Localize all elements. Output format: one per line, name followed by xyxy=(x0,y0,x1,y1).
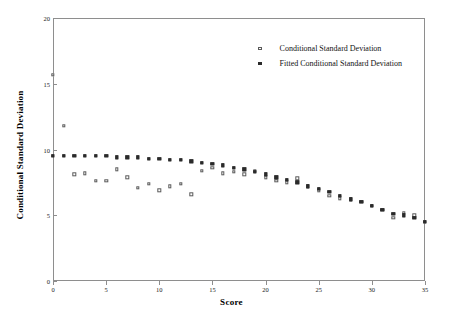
x-axis-label: Score xyxy=(0,297,463,307)
data-point xyxy=(317,187,320,190)
x-tick-label: 20 xyxy=(262,286,269,293)
data-point xyxy=(62,124,65,127)
data-point xyxy=(51,73,54,76)
data-point xyxy=(51,154,54,157)
data-point xyxy=(83,154,86,157)
data-point xyxy=(189,160,192,163)
data-point xyxy=(104,154,107,157)
x-tick-mark xyxy=(319,281,320,285)
open-square-icon xyxy=(258,47,262,51)
data-point xyxy=(126,175,129,178)
data-point xyxy=(200,161,203,164)
data-point xyxy=(274,175,277,178)
x-tick-mark xyxy=(212,281,213,285)
data-point xyxy=(115,156,118,159)
y-axis-label: Conditional Standard Deviation xyxy=(15,65,25,245)
legend-label: Fitted Conditional Standard Deviation xyxy=(280,59,402,68)
data-point xyxy=(243,173,246,176)
data-point xyxy=(381,208,384,211)
data-point xyxy=(147,182,150,185)
data-point xyxy=(338,194,341,197)
data-point xyxy=(179,158,182,161)
x-tick-mark xyxy=(266,281,267,285)
y-tick-mark xyxy=(53,215,57,216)
data-point xyxy=(115,168,118,171)
y-tick-label: 15 xyxy=(44,80,51,87)
legend-label: Conditional Standard Deviation xyxy=(280,44,382,53)
legend-item: Conditional Standard Deviation xyxy=(258,41,402,56)
data-point xyxy=(126,156,129,159)
x-tick-label: 5 xyxy=(105,286,108,293)
data-point xyxy=(221,171,224,174)
x-tick-label: 25 xyxy=(315,286,322,293)
data-point xyxy=(147,157,150,160)
data-point xyxy=(391,212,394,215)
data-point xyxy=(423,220,426,223)
data-point xyxy=(402,214,405,217)
data-point xyxy=(232,170,235,173)
data-point xyxy=(62,154,65,157)
data-point xyxy=(232,166,235,169)
data-point xyxy=(136,186,139,189)
x-tick-label: 10 xyxy=(156,286,163,293)
data-point xyxy=(211,162,214,165)
y-tick-mark xyxy=(53,281,57,282)
y-tick-mark xyxy=(53,18,57,19)
data-point xyxy=(168,185,171,188)
x-tick-mark xyxy=(425,281,426,285)
x-tick-mark xyxy=(372,281,373,285)
data-point xyxy=(104,179,107,182)
data-point xyxy=(253,170,256,173)
data-point xyxy=(243,168,246,171)
x-tick-label: 0 xyxy=(51,286,54,293)
chart-screenshot: 05101520253035 05101520 Score Conditiona… xyxy=(0,0,463,330)
data-point xyxy=(391,216,394,219)
data-point xyxy=(328,190,331,193)
filled-square-icon xyxy=(258,62,262,66)
y-tick-mark xyxy=(53,84,57,85)
data-point xyxy=(158,157,161,160)
data-point xyxy=(94,179,97,182)
x-tick-label: 35 xyxy=(422,286,429,293)
data-point xyxy=(296,177,299,180)
legend-item: Fitted Conditional Standard Deviation xyxy=(258,56,402,71)
data-point xyxy=(136,156,139,159)
x-tick-label: 30 xyxy=(369,286,376,293)
data-point xyxy=(73,154,76,157)
data-point xyxy=(168,158,171,161)
data-point xyxy=(306,185,309,188)
data-point xyxy=(158,189,161,192)
x-tick-label: 15 xyxy=(209,286,216,293)
data-point xyxy=(211,166,214,169)
x-tick-mark xyxy=(159,281,160,285)
data-point xyxy=(264,173,267,176)
data-point xyxy=(370,204,373,207)
chart-legend: Conditional Standard DeviationFitted Con… xyxy=(258,41,402,71)
y-tick-label: 5 xyxy=(47,212,50,219)
data-point xyxy=(200,169,203,172)
y-tick-label: 20 xyxy=(44,15,51,22)
y-tick-mark xyxy=(53,150,57,151)
x-tick-mark xyxy=(106,281,107,285)
data-point xyxy=(274,179,277,182)
data-point xyxy=(73,173,76,176)
data-point xyxy=(360,200,363,203)
data-point xyxy=(296,181,299,184)
data-point xyxy=(83,171,86,174)
data-point xyxy=(349,198,352,201)
data-point xyxy=(413,216,416,219)
data-point xyxy=(285,178,288,181)
data-point xyxy=(221,164,224,167)
y-tick-label: 0 xyxy=(47,278,50,285)
data-point xyxy=(328,194,331,197)
data-point xyxy=(189,193,192,196)
y-tick-label: 10 xyxy=(44,146,51,153)
data-point xyxy=(179,182,182,185)
data-point xyxy=(94,154,97,157)
